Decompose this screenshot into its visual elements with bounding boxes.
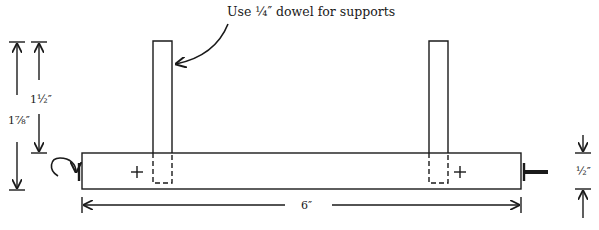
right-pivot-plus-icon: [454, 166, 466, 178]
length-label: 6″: [301, 199, 312, 212]
overall-height-label: 1⅞″: [8, 114, 30, 127]
support-height-label: 1½″: [30, 93, 52, 106]
crank-rotation-icon: [51, 158, 76, 176]
annotation-arrow-icon: [176, 24, 228, 64]
mechanism-diagram: Use ¼″ dowel for supports 6″ 1: [0, 0, 599, 230]
main-bar: [82, 153, 521, 189]
right-support-dowel: [429, 41, 448, 183]
thickness-label: ½″: [576, 165, 591, 178]
left-pivot-plus-icon: [131, 166, 143, 178]
left-support-dowel: [153, 41, 172, 183]
dowel-annotation: Use ¼″ dowel for supports: [227, 4, 395, 19]
